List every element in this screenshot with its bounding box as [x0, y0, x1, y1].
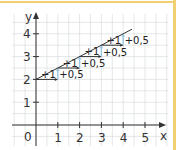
x-axis-label: x: [160, 129, 167, 143]
step-rise-label: +0,5: [59, 69, 83, 80]
y-tick-label: 3: [23, 50, 31, 64]
x-tick-label: 2: [76, 131, 84, 145]
coordinate-plot: xy0123451234+1+0,5+1+0,5+1+0,5+1+0,5: [0, 0, 176, 150]
x-tick-label: 1: [54, 131, 62, 145]
x-tick-label: 3: [98, 131, 106, 145]
origin-label: 0: [24, 130, 32, 144]
step-rise-label: +0,5: [103, 47, 127, 58]
y-axis-label: y: [25, 10, 32, 24]
x-tick-label: 4: [120, 131, 128, 145]
step-rise-label: +0,5: [125, 35, 149, 46]
step-rise-label: +0,5: [81, 58, 105, 69]
x-tick-label: 5: [142, 131, 150, 145]
x-axis-arrow-icon: [159, 122, 166, 128]
chart-frame: xy0123451234+1+0,5+1+0,5+1+0,5+1+0,5 x y: [0, 0, 176, 150]
y-axis-arrow-icon: [33, 12, 39, 19]
y-tick-label: 2: [23, 73, 31, 87]
y-tick-label: 4: [23, 27, 31, 41]
y-tick-label: 1: [23, 96, 31, 110]
